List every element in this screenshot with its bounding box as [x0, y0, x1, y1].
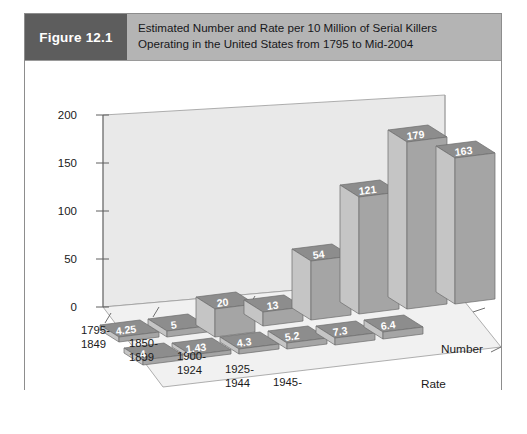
cat-line-a: 1795- — [81, 324, 110, 336]
bar-value-179: 179 — [406, 128, 425, 142]
cat-line-a: 1945- — [273, 376, 302, 388]
bar-value-1-43: 1.43 — [185, 340, 207, 354]
series-label-rate: Rate — [421, 377, 446, 390]
y-tick-label-200: 200 — [45, 109, 77, 121]
bar-value-54: 54 — [312, 248, 325, 261]
bar-value-13: 13 — [266, 299, 279, 312]
figure-header: Figure 12.1 Estimated Number and Rate pe… — [25, 14, 501, 61]
cat-line-b: 1924 — [177, 364, 202, 376]
cat-line-a: 1925- — [225, 363, 254, 375]
x-category-label-1795-1849: 1795- 1849 — [81, 324, 110, 351]
y-tick-label-100: 100 — [45, 205, 77, 217]
bar-value-20: 20 — [216, 296, 229, 309]
x-category-label-1925-1944: 1925- 1944 — [225, 363, 254, 390]
bar-value-121: 121 — [358, 183, 377, 197]
bar-value-6-4: 6.4 — [380, 318, 396, 332]
bar-number-extra — [436, 141, 495, 304]
bar-value-7-3: 7.3 — [332, 324, 348, 338]
cat-line-a: 1980- — [321, 389, 350, 390]
figure-title: Estimated Number and Rate per 10 Million… — [127, 14, 501, 60]
cat-line-b: 1944 — [225, 377, 250, 389]
series-label-number: Number — [441, 342, 483, 356]
figure-number-badge: Figure 12.1 — [25, 14, 127, 60]
bar-value-4: 4 — [139, 347, 146, 360]
y-tick-label-0: 0 — [45, 301, 77, 313]
y-tick-label-150: 150 — [45, 157, 77, 169]
figure-container: Figure 12.1 Estimated Number and Rate pe… — [24, 13, 502, 390]
cat-line-b: 1979 — [273, 390, 298, 391]
y-tick-label-50: 50 — [45, 253, 77, 265]
cat-line-b: 1849 — [81, 338, 106, 350]
x-category-label-1945-1979: 1945- 1979 — [273, 376, 302, 390]
bar-value-163: 163 — [454, 144, 473, 158]
bar-value-5-2: 5.2 — [284, 329, 300, 343]
bar-value-4-25: 4.25 — [115, 322, 137, 336]
x-category-label-1980-1989: 1980- 1989 — [321, 389, 350, 390]
bar-value-4-3: 4.3 — [236, 335, 252, 349]
bar-value-5: 5 — [170, 318, 177, 331]
chart-plot-area: 0 50 100 150 200 1795- 1849 1850- 1899 1… — [25, 61, 501, 390]
